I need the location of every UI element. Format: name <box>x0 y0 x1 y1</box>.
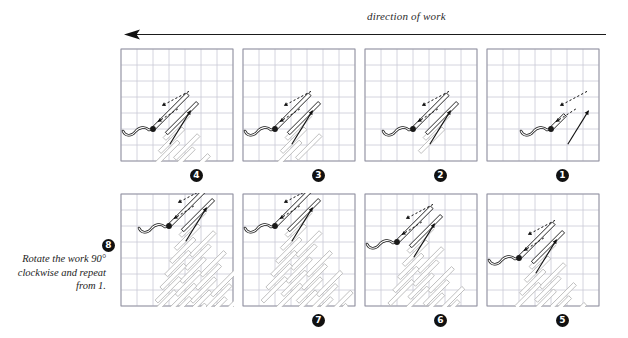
needle-point-dot <box>548 126 554 132</box>
panel-step-7 <box>242 193 356 307</box>
panel-step-3 <box>242 48 356 162</box>
step-badge-4: 4 <box>190 169 203 182</box>
rotate-note-line-2: clockwise and repeat <box>8 266 106 280</box>
active-stitch <box>412 93 449 130</box>
step-badge-2: 2 <box>434 169 447 182</box>
panel-step-1 <box>486 48 600 162</box>
panel-border <box>487 49 599 161</box>
needle-point-dot <box>394 239 400 245</box>
direction-of-work-arrow <box>124 28 606 41</box>
panel-step-8 <box>120 193 234 307</box>
step-badge-8: 8 <box>102 239 115 252</box>
panel-step-2 <box>364 48 478 162</box>
step-badge-6: 6 <box>434 314 447 327</box>
working-thread <box>123 126 156 135</box>
active-stitch <box>518 222 555 259</box>
guide-arrow-forward <box>568 111 589 145</box>
active-stitch <box>396 206 433 243</box>
stitch-grid <box>364 193 478 307</box>
needle-point-dot <box>272 126 278 132</box>
stitch-grid <box>242 193 356 307</box>
working-thread <box>245 126 278 135</box>
step-badge-5: 5 <box>556 314 569 327</box>
working-thread <box>139 223 172 232</box>
direction-of-work-label: direction of work <box>367 10 446 22</box>
needle-point-dot <box>410 126 416 132</box>
diagram-canvas: direction of work 4 3 2 1 8 7 6 5 Rotate… <box>0 0 628 338</box>
working-thread <box>383 126 416 135</box>
stitch-grid <box>486 48 600 162</box>
grid-lines <box>487 49 599 161</box>
step-badge-1: 1 <box>556 169 569 182</box>
working-thread <box>245 223 278 232</box>
active-stitch <box>152 93 189 130</box>
grid-lines <box>365 49 477 161</box>
working-thread <box>489 255 522 264</box>
stitch-grid <box>364 48 478 162</box>
needle-point-dot <box>272 223 278 229</box>
stitch-grid <box>486 193 600 307</box>
working-thread <box>521 126 554 135</box>
panel-step-5 <box>486 193 600 307</box>
rotate-instruction-note: Rotate the work 90° clockwise and repeat… <box>8 252 106 293</box>
active-stitch <box>274 93 311 130</box>
panel-border <box>365 49 477 161</box>
step-badge-7: 7 <box>312 314 325 327</box>
stitch-grid <box>120 48 234 162</box>
working-thread <box>367 239 400 248</box>
needle-point-dot <box>516 255 522 261</box>
needle-point-dot <box>166 223 172 229</box>
stitch-grid <box>120 193 234 307</box>
needle-point-dot <box>150 126 156 132</box>
rotate-note-line-3: from 1. <box>8 279 106 293</box>
rotate-note-line-1: Rotate the work 90° <box>8 252 106 266</box>
panel-step-6 <box>364 193 478 307</box>
panel-step-4 <box>120 48 234 162</box>
step-badge-3: 3 <box>312 169 325 182</box>
stitch-grid <box>242 48 356 162</box>
